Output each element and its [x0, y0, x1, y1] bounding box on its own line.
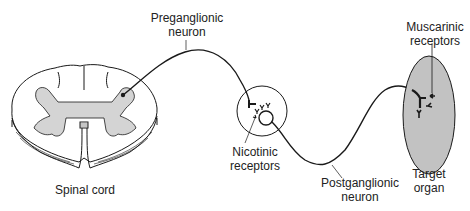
target-organ-label: Target organ: [409, 167, 449, 195]
label-line: neuron: [150, 25, 224, 39]
label-line: Spinal cord: [50, 183, 120, 197]
label-line: receptors: [405, 34, 465, 48]
label-line: Postganglionic: [320, 176, 400, 190]
postganglionic-neuron-fiber: [272, 86, 419, 164]
preganglionic-neuron-label: Preganglionic neuron: [150, 11, 224, 39]
postganglionic-neuron-label: Postganglionic neuron: [320, 176, 400, 204]
label-line: organ: [409, 181, 449, 195]
spinal-cord-label: Spinal cord: [50, 183, 120, 197]
label-line: Preganglionic: [150, 11, 224, 25]
label-line: neuron: [320, 190, 400, 204]
label-line: Muscarinic: [405, 20, 465, 34]
label-line: Target: [409, 167, 449, 181]
autonomic-ganglion: [237, 86, 287, 136]
spinal-cord-cross-section: [12, 65, 157, 168]
target-organ: [403, 56, 455, 174]
label-line: receptors: [225, 159, 285, 173]
nicotinic-receptors-label: Nicotinic receptors: [225, 145, 285, 173]
label-line: Nicotinic: [225, 145, 285, 159]
muscarinic-receptors-label: Muscarinic receptors: [405, 20, 465, 48]
